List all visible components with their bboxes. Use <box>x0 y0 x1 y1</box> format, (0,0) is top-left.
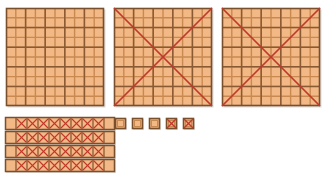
unit-cube[interactable] <box>115 118 127 130</box>
ten-rod[interactable] <box>5 117 116 131</box>
unit-cube[interactable] <box>183 118 195 130</box>
ten-rod[interactable] <box>5 131 116 145</box>
ten-rod[interactable] <box>5 145 116 159</box>
unit-cube[interactable] <box>166 118 178 130</box>
block-fill <box>149 118 160 129</box>
blocks-illustration <box>0 0 328 181</box>
unit-cube[interactable] <box>149 118 161 130</box>
ten-rod[interactable] <box>5 159 116 173</box>
hundred-flat[interactable] <box>114 8 214 108</box>
hundred-flat[interactable] <box>222 8 322 108</box>
base-ten-blocks-canvas: Base-Ten Blocks <box>0 0 328 181</box>
unit-cube[interactable] <box>132 118 144 130</box>
hundred-flat[interactable] <box>6 8 106 108</box>
block-fill <box>115 118 126 129</box>
block-fill <box>132 118 143 129</box>
